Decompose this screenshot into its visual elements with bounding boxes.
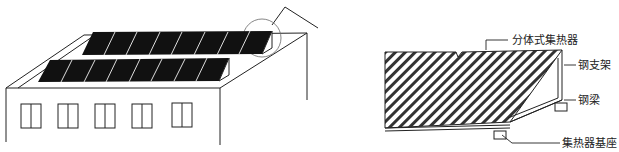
collector-detail xyxy=(385,50,567,139)
solar-panel-row-front xyxy=(38,58,229,82)
label-steel-bracket: 钢支架 xyxy=(578,59,611,72)
solar-panel-row-back xyxy=(82,31,272,55)
diagram-canvas: 分体式集热器 钢支架 钢梁 集热器基座 xyxy=(0,0,619,152)
collector-base-right xyxy=(555,103,567,111)
windows xyxy=(21,103,192,128)
collector-base-left xyxy=(494,131,506,139)
label-collector: 分体式集热器 xyxy=(512,33,578,47)
label-steel-beam: 钢梁 xyxy=(578,93,600,107)
label-collector-base: 集热器基座 xyxy=(562,136,617,150)
